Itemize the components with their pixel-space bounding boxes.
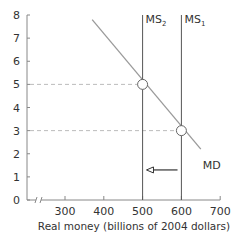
- series: MDMS1MS2: [92, 13, 221, 200]
- y-tick-label: 0: [13, 194, 20, 207]
- x-axis-title: Real money (billions of 2004 dollars): [38, 220, 230, 232]
- annotations: [146, 167, 177, 173]
- y-tick-label: 6: [13, 55, 20, 68]
- x-tick-label: 600: [171, 205, 192, 218]
- supply-label-ms1: MS1: [184, 13, 205, 28]
- supply-label-ms2: MS2: [146, 13, 167, 28]
- y-tick-label: 4: [13, 102, 20, 115]
- x-tick-label: 300: [55, 205, 76, 218]
- y-tick-label: 3: [13, 125, 20, 138]
- y-tick-label: 1: [13, 171, 20, 184]
- shift-arrow-head: [146, 167, 153, 173]
- equilibrium-point: [176, 126, 186, 136]
- axes: [27, 15, 220, 203]
- demand-label: MD: [203, 159, 221, 172]
- x-tick-label: 400: [93, 205, 114, 218]
- equilibrium-point: [138, 79, 148, 89]
- x-tick-label: 700: [210, 205, 231, 218]
- y-tick-label: 7: [13, 32, 20, 45]
- y-tick-label: 8: [13, 9, 20, 22]
- guide-lines: [30, 84, 181, 130]
- equilibrium-markers: [138, 79, 187, 135]
- x-tick-label: 500: [132, 205, 153, 218]
- money-market-chart: Interest rate (per cent per year) 012345…: [0, 0, 240, 244]
- y-tick-label: 5: [13, 78, 20, 91]
- y-tick-label: 2: [13, 148, 20, 161]
